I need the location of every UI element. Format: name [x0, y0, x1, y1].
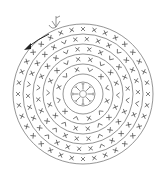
crochet-diagram [0, 0, 164, 182]
increase-symbol-icon [97, 133, 103, 138]
single-crochet-symbol-icon [145, 80, 150, 85]
increase-symbol-icon [108, 56, 114, 62]
single-crochet-symbol-icon [137, 59, 142, 64]
single-crochet-symbol-icon [103, 30, 108, 35]
increase-symbol-icon [36, 85, 40, 91]
ring-line [43, 54, 123, 134]
round-rings [13, 24, 153, 164]
single-crochet-symbol-icon [81, 157, 85, 161]
single-crochet-symbol-icon [98, 50, 103, 55]
single-crochet-symbol-icon [116, 119, 122, 125]
single-crochet-symbol-icon [122, 41, 128, 47]
single-crochet-symbol-icon [58, 153, 63, 158]
single-crochet-symbol-icon [86, 126, 91, 131]
single-crochet-symbol-icon [137, 124, 142, 129]
single-crochet-symbol-icon [53, 55, 59, 61]
single-crochet-symbol-icon [73, 37, 78, 42]
single-crochet-symbol-icon [24, 59, 29, 64]
single-crochet-symbol-icon [122, 75, 127, 80]
single-crochet-symbol-icon [88, 146, 93, 151]
single-crochet-symbol-icon [92, 28, 97, 33]
single-crochet-symbol-icon [19, 114, 24, 119]
magic-ring [71, 82, 95, 106]
arrow-head-icon [24, 43, 31, 50]
increase-symbol-icon [97, 109, 103, 115]
single-crochet-symbol-icon [38, 141, 44, 147]
increase-symbol-icon [87, 68, 93, 73]
increase-symbol-icon [73, 116, 79, 121]
single-crochet-symbol-icon [108, 70, 114, 76]
single-crochet-symbol-icon [87, 116, 92, 121]
single-crochet-symbol-icon [106, 115, 112, 121]
single-crochet-symbol-icon [16, 92, 20, 96]
single-crochet-symbol-icon [38, 41, 44, 47]
single-crochet-symbol-icon [37, 125, 43, 131]
single-crochet-symbol-icon [103, 153, 108, 158]
increase-symbol-icon [63, 50, 69, 55]
increase-symbol-icon [61, 121, 67, 126]
increase-symbol-icon [61, 40, 67, 45]
single-crochet-symbol-icon [42, 52, 48, 58]
increase-symbol-icon [99, 143, 105, 148]
single-crochet-symbol-icon [30, 133, 36, 139]
single-crochet-symbol-icon [39, 74, 44, 79]
increase-symbol-icon [115, 49, 121, 55]
single-crochet-symbol-icon [122, 141, 128, 147]
direction-arrow-icon [28, 34, 49, 47]
single-crochet-symbol-icon [29, 71, 34, 76]
increase-symbol-icon [57, 97, 61, 103]
increase-symbol-icon [99, 62, 105, 67]
increase-symbol-icon [52, 127, 58, 133]
single-crochet-symbol-icon [81, 27, 85, 31]
single-crochet-symbol-icon [24, 124, 29, 129]
single-crochet-symbol-icon [105, 98, 110, 103]
single-crochet-symbol-icon [116, 64, 122, 70]
single-crochet-symbol-icon [113, 35, 118, 40]
single-crochet-symbol-icon [27, 105, 32, 110]
ring-line [63, 74, 103, 114]
single-crochet-symbol-icon [26, 94, 30, 98]
increase-symbol-icon [105, 85, 109, 91]
single-crochet-symbol-icon [113, 148, 118, 153]
single-crochet-symbol-icon [122, 109, 127, 114]
single-crochet-symbol-icon [54, 68, 60, 74]
single-crochet-symbol-icon [62, 109, 68, 115]
single-crochet-symbol-icon [19, 69, 24, 74]
stitch-symbols [16, 27, 150, 161]
single-crochet-symbol-icon [130, 67, 135, 72]
single-crochet-symbol-icon [118, 131, 124, 137]
single-crochet-symbol-icon [53, 113, 59, 119]
single-crochet-symbol-icon [87, 47, 92, 52]
increase-symbol-icon [27, 82, 31, 88]
single-crochet-symbol-icon [130, 133, 136, 139]
single-crochet-symbol-icon [30, 49, 36, 55]
single-crochet-symbol-icon [146, 92, 150, 96]
single-crochet-symbol-icon [17, 103, 22, 108]
increase-symbol-icon [116, 93, 119, 98]
increase-symbol-icon [64, 60, 70, 65]
single-crochet-symbol-icon [35, 60, 41, 66]
single-crochet-symbol-icon [126, 122, 132, 128]
ring-line [23, 34, 143, 154]
single-crochet-symbol-icon [74, 136, 79, 141]
single-crochet-symbol-icon [69, 156, 74, 161]
single-crochet-symbol-icon [65, 144, 70, 149]
single-crochet-symbol-icon [48, 35, 53, 40]
increase-symbol-icon [96, 122, 102, 127]
increase-symbol-icon [45, 133, 51, 139]
single-crochet-symbol-icon [142, 69, 147, 74]
single-crochet-symbol-icon [47, 102, 52, 107]
single-crochet-symbol-icon [73, 126, 78, 131]
single-crochet-symbol-icon [145, 103, 150, 108]
single-crochet-symbol-icon [69, 28, 74, 33]
single-crochet-symbol-icon [86, 136, 90, 140]
single-crochet-symbol-icon [125, 86, 129, 90]
single-crochet-symbol-icon [56, 85, 61, 90]
ring-line [53, 64, 113, 124]
single-crochet-symbol-icon [45, 63, 51, 69]
single-crochet-symbol-icon [39, 108, 44, 113]
single-crochet-symbol-icon [48, 78, 53, 83]
single-crochet-symbol-icon [31, 115, 36, 120]
single-crochet-symbol-icon [58, 30, 63, 35]
single-crochet-symbol-icon [17, 80, 22, 85]
